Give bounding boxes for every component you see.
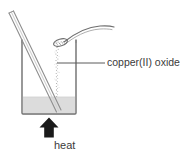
experiment-diagram bbox=[0, 0, 185, 160]
beaker-liquid bbox=[23, 97, 75, 113]
diagram-canvas: copper(II) oxide heat bbox=[0, 0, 185, 160]
powder-stream bbox=[55, 47, 60, 97]
label-heat: heat bbox=[54, 140, 75, 151]
spatula bbox=[53, 26, 114, 48]
stirring-rod-edge-right bbox=[14, 11, 62, 110]
heat-arrow-icon bbox=[40, 118, 59, 138]
stirring-rod-highlight bbox=[11, 12, 59, 111]
label-copper-ii-oxide: copper(II) oxide bbox=[107, 57, 180, 68]
spatula-tip bbox=[54, 43, 55, 45]
spatula-bowl bbox=[53, 37, 69, 48]
